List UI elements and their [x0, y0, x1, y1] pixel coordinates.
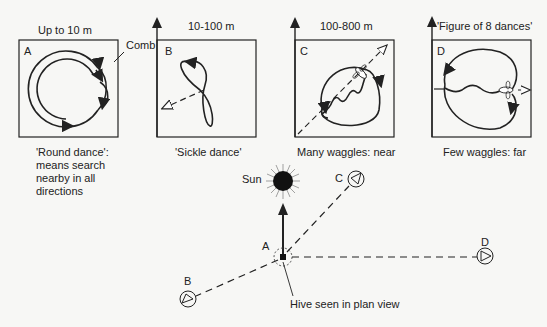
panel-d-caption: Few waggles: far [443, 146, 526, 159]
panel-a-caption: 'Round dance': means search nearby in al… [36, 146, 109, 198]
path-to-b [196, 260, 278, 296]
caption-line: 'Round dance': [36, 146, 109, 159]
comb-label: Comb [126, 39, 155, 51]
panel-b-caption: 'Sickle dance' [175, 146, 242, 159]
target-c-icon [348, 171, 364, 187]
caption-line: means search [36, 159, 109, 172]
caption-line: directions [36, 185, 109, 198]
caption-line: nearby in all [36, 172, 109, 185]
panel-b-box [152, 17, 256, 137]
panel-d-box [427, 16, 531, 137]
panel-c-box [290, 17, 394, 137]
panel-d-letter: D [437, 45, 445, 57]
caption-line: Few waggles: far [443, 146, 526, 159]
hive-caption: Hive seen in plan view [290, 298, 399, 310]
hive-label: A [262, 240, 269, 252]
target-c-label: C [335, 172, 343, 184]
sun-label: Sun [242, 173, 262, 185]
caption-line: Many waggles: near [297, 146, 395, 159]
panel-a-box [19, 40, 124, 137]
panel-d-title: 'Figure of 8 dances' [437, 20, 532, 32]
panel-b-letter: B [165, 45, 172, 57]
panel-a-distance: Up to 10 m [38, 24, 92, 36]
panel-b-distance: 10-100 m [188, 20, 234, 32]
sun-icon [266, 164, 300, 199]
bee-icon-d [499, 81, 513, 99]
bee-icon-c [350, 62, 373, 85]
panel-c-caption: Many waggles: near [297, 146, 395, 159]
panel-c-distance: 100-800 m [320, 20, 373, 32]
target-b-label: B [184, 275, 191, 287]
panel-c-letter: C [300, 45, 308, 57]
path-to-c [287, 186, 349, 252]
target-b-icon [180, 291, 196, 307]
panel-a-letter: A [24, 45, 31, 57]
target-d-label: D [481, 236, 489, 248]
caption-line: 'Sickle dance' [175, 146, 242, 159]
target-d-icon [477, 248, 493, 264]
